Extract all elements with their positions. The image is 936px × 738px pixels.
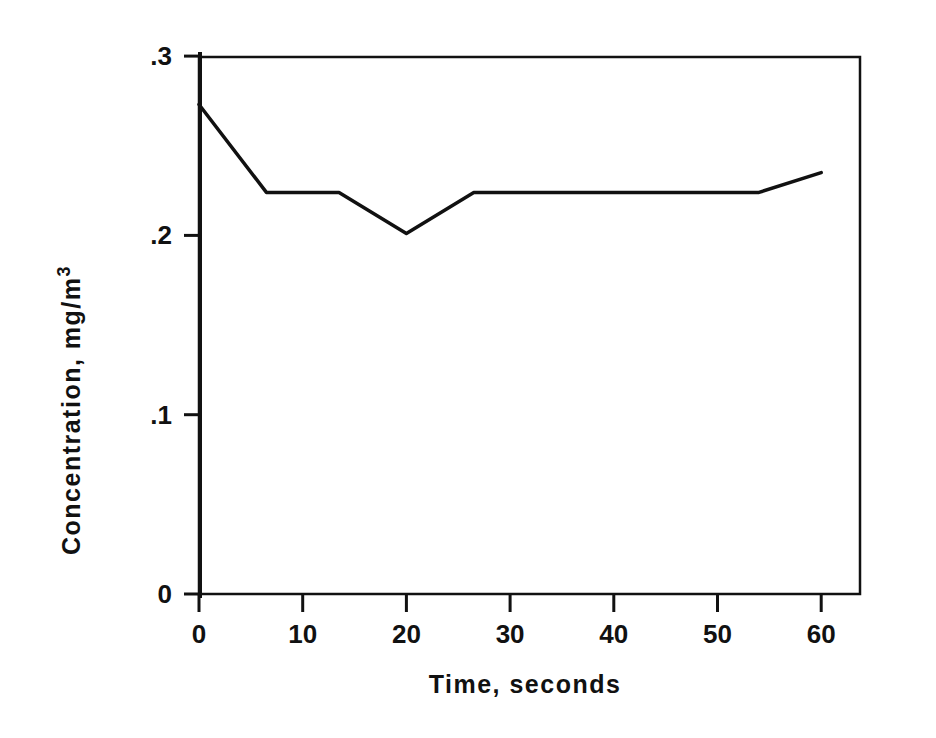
x-tick-label: 30 [496,619,525,649]
y-axis-title: Concentration, mg/m3 [54,265,85,555]
line-chart: 0.1.2.3 0102030405060 Time, seconds Conc… [0,0,936,738]
x-tick-label: 50 [703,619,732,649]
y-ticks: 0.1.2.3 [150,41,200,609]
y-axis-title-superscript: 3 [54,265,74,277]
x-tick-label: 60 [807,619,836,649]
x-tick-label: 10 [288,619,317,649]
x-tick-label: 0 [192,619,206,649]
plot-frame [199,57,860,594]
x-tick-label: 40 [599,619,628,649]
x-tick-label: 20 [392,619,421,649]
y-tick-label: .1 [150,400,172,430]
y-tick-label: 0 [158,579,172,609]
y-tick-label: .2 [150,220,172,250]
y-tick-label: .3 [150,41,172,71]
x-ticks: 0102030405060 [192,594,836,649]
x-axis-title: Time, seconds [429,670,622,698]
concentration-line [199,105,821,234]
